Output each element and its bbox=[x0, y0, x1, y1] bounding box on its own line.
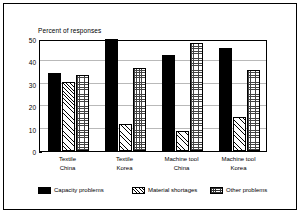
y-axis-tick-label: 10 bbox=[6, 126, 36, 133]
legend-label: Material shortages bbox=[148, 187, 197, 193]
y-axis-tick-label: 40 bbox=[6, 59, 36, 66]
legend-label: Capacity problems bbox=[54, 187, 104, 193]
chart-legend: Capacity problemsMaterial shortagesOther… bbox=[38, 185, 270, 197]
y-axis: 01020304050 bbox=[3, 40, 36, 152]
bar bbox=[176, 131, 189, 151]
x-axis-tick-label-line: Machine tool bbox=[153, 155, 210, 164]
bar bbox=[247, 70, 260, 151]
x-axis-tick-label-line: China bbox=[153, 164, 210, 173]
bar bbox=[62, 82, 75, 151]
bar-group bbox=[40, 41, 97, 151]
y-axis-tick-label: 30 bbox=[6, 81, 36, 88]
y-axis-tick-label: 0 bbox=[6, 149, 36, 156]
x-axis-tick-label-line: Textile bbox=[39, 155, 96, 164]
bar-group bbox=[97, 41, 154, 151]
plot-area bbox=[39, 40, 267, 152]
bar bbox=[233, 117, 246, 151]
bar bbox=[162, 55, 175, 151]
bar-group bbox=[154, 41, 211, 151]
bar bbox=[190, 43, 203, 151]
x-axis-tick-label-line: Machine tool bbox=[210, 155, 267, 164]
y-axis-tick-mark bbox=[39, 152, 42, 153]
x-axis-tick-label-line: Textile bbox=[96, 155, 153, 164]
chart-title: Percent of responses bbox=[38, 27, 101, 34]
legend-swatch bbox=[38, 187, 51, 194]
x-axis-tick-label-line: Korea bbox=[210, 164, 267, 173]
bar bbox=[48, 73, 61, 151]
x-axis-tick-label: Machine toolChina bbox=[153, 155, 210, 172]
bar bbox=[119, 124, 132, 151]
bar bbox=[76, 75, 89, 151]
legend-label: Other problems bbox=[226, 187, 267, 193]
bar-group bbox=[211, 41, 268, 151]
bar bbox=[219, 48, 232, 151]
chart-figure: Percent of responses 01020304050 Textile… bbox=[0, 0, 300, 213]
x-axis-tick-label: Machine toolKorea bbox=[210, 155, 267, 172]
legend-item: Other problems bbox=[210, 185, 267, 195]
legend-swatch bbox=[210, 187, 223, 194]
legend-item: Capacity problems bbox=[38, 185, 104, 195]
bars-layer bbox=[40, 41, 266, 151]
bar bbox=[133, 68, 146, 151]
y-axis-tick-label: 50 bbox=[6, 37, 36, 44]
bar bbox=[105, 39, 118, 151]
x-axis: TextileChinaTextileKoreaMachine toolChin… bbox=[39, 155, 267, 181]
x-axis-tick-label-line: Korea bbox=[96, 164, 153, 173]
x-axis-tick-label: TextileKorea bbox=[96, 155, 153, 172]
x-axis-tick-label: TextileChina bbox=[39, 155, 96, 172]
legend-swatch bbox=[132, 187, 145, 194]
y-axis-tick-label: 20 bbox=[6, 104, 36, 111]
x-axis-tick-label-line: China bbox=[39, 164, 96, 173]
legend-item: Material shortages bbox=[132, 185, 197, 195]
